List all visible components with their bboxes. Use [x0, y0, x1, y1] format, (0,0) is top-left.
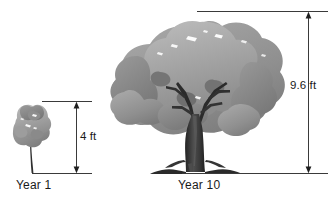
year10-height-label: 9.6 ft — [290, 79, 316, 91]
year1-arrow-up — [74, 102, 80, 109]
year1-arrow-down — [74, 167, 80, 174]
year10-dimension-group — [182, 12, 328, 174]
year1-caption: Year 1 — [16, 178, 51, 192]
measurement-annotation-layer — [0, 0, 332, 201]
year10-arrow-down — [306, 167, 312, 174]
year1-height-label: 4 ft — [80, 130, 96, 142]
tree-growth-figure: 4 ft 9.6 ft Year 1 Year 10 — [0, 0, 332, 201]
year10-caption: Year 10 — [178, 178, 220, 192]
year10-arrow-up — [306, 12, 312, 19]
